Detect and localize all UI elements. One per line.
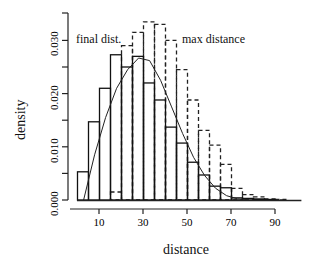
y-tick-label: 0.030	[48, 32, 60, 57]
final-distance-bar	[133, 56, 144, 200]
x-tick-label: 50	[172, 216, 202, 228]
final-distance-bar	[188, 162, 199, 200]
final-distance-bar	[89, 122, 100, 200]
y-tick-label: 0.000	[48, 191, 60, 216]
x-tick-label: 70	[216, 216, 246, 228]
final-distance-bar	[166, 127, 177, 200]
y-tick-label: 0.010	[48, 138, 60, 163]
final-distance-bar	[144, 83, 155, 200]
final-distance-bar	[100, 88, 111, 200]
x-tick-label: 10	[84, 216, 114, 228]
final-distance-bar	[221, 188, 232, 200]
x-tick-label: 90	[260, 216, 290, 228]
annotation-max-distance: max distance	[182, 32, 245, 47]
x-tick-label: 30	[128, 216, 158, 228]
x-axis-label: distance	[163, 242, 209, 258]
final-distance-bar	[122, 67, 133, 200]
y-tick-label: 0.020	[48, 85, 60, 110]
annotation-final-dist: final dist.	[76, 32, 121, 47]
final-distance-bar	[177, 143, 188, 200]
y-axis-label: density	[13, 100, 29, 140]
final-distance-bar	[111, 55, 122, 200]
final-distance-bar	[155, 100, 166, 200]
final-distance-bar	[254, 199, 265, 200]
